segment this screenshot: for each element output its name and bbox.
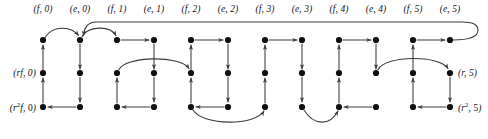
vertex-m-3 [114, 70, 120, 76]
vertex-f-3 [262, 37, 268, 43]
vertex-m-4 [151, 70, 157, 76]
vertex-m-9 [336, 70, 342, 76]
edge-arc-top-c1-to-c2 [45, 28, 79, 37]
edge-wraparound-top [84, 22, 479, 40]
vertex-e-0 [77, 37, 83, 43]
vertex-b-5 [188, 104, 194, 110]
vertex-e-3 [299, 37, 305, 43]
vertex-e-5 [447, 37, 453, 43]
vertex-f-0 [40, 37, 46, 43]
vertex-b-6 [225, 104, 231, 110]
vertex-f-4 [336, 37, 342, 43]
vertex-m-5 [188, 70, 194, 76]
vertex-b-10 [373, 104, 379, 110]
vertex-r2f-0 [40, 104, 46, 110]
vertex-r2-5 [447, 104, 453, 110]
graph-figure: (f, 0) (e, 0) (f, 1) (e, 1) (f, 2) (e, 2… [0, 0, 488, 139]
vertex-b-9 [336, 104, 342, 110]
vertex-r-5 [447, 70, 453, 76]
vertex-e-4 [373, 37, 379, 43]
vertex-e-2 [225, 37, 231, 43]
vertex-m-7 [262, 70, 268, 76]
vertex-b-2 [77, 104, 83, 110]
vertex-rf-0 [40, 70, 46, 76]
vertex-f-2 [188, 37, 194, 43]
vertex-m-8 [299, 70, 305, 76]
vertex-m-10 [373, 70, 379, 76]
edge-arc-bottom-c8-to-c9 [304, 110, 338, 122]
vertex-b-4 [151, 104, 157, 110]
vertex-b-11 [410, 104, 416, 110]
vertices-group [40, 37, 453, 110]
graph-canvas [0, 0, 488, 139]
edge-arc-top-c2-to-c3 [82, 28, 116, 36]
vertex-m-11 [410, 70, 416, 76]
vertex-m-6 [225, 70, 231, 76]
vertex-b-7 [262, 104, 268, 110]
edge-arc-bottom-c5-to-c7 [193, 110, 264, 122]
vertex-e-1 [151, 37, 157, 43]
vertex-f-5 [410, 37, 416, 43]
vertex-b-8 [299, 104, 305, 110]
vertex-f-1 [114, 37, 120, 43]
vertex-b-3 [114, 104, 120, 110]
vertex-m-2 [77, 70, 83, 76]
